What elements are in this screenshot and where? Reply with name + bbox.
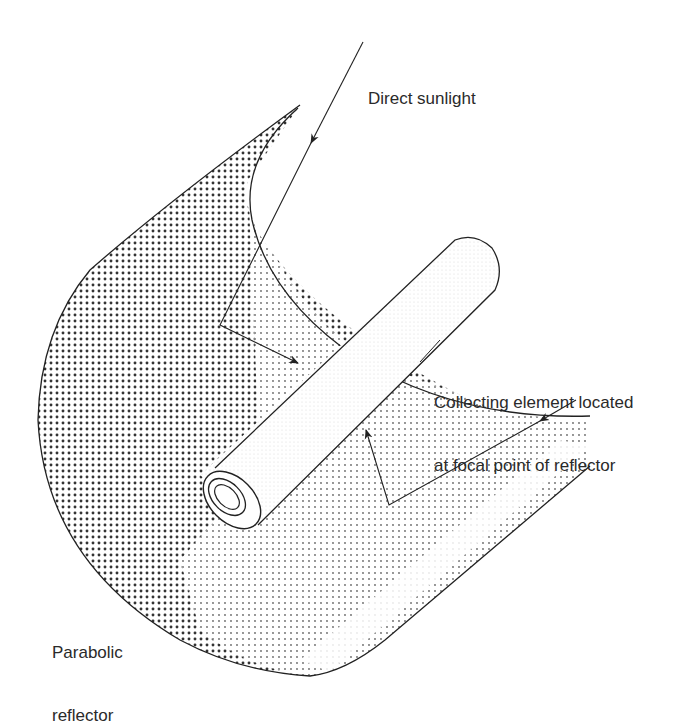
label-collecting-element-line2: at focal point of reflector — [434, 455, 633, 476]
label-direct-sunlight: Direct sunlight — [368, 88, 476, 109]
label-parabolic-reflector-line1: Parabolic — [52, 642, 123, 663]
label-collecting-element-line1: Collecting element located — [434, 392, 633, 413]
label-collecting-element: Collecting element located at focal poin… — [434, 350, 633, 518]
label-parabolic-reflector: Parabolic reflector — [52, 600, 123, 725]
label-parabolic-reflector-line2: reflector — [52, 705, 123, 725]
